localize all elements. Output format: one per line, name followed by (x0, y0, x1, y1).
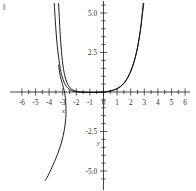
y-tick-label: 2.5 (88, 49, 97, 57)
x-axis-label: x (61, 107, 65, 114)
y-tick-label: 5.0 (88, 10, 97, 18)
x-tick-label: -6 (19, 99, 25, 107)
plot-background (0, 0, 196, 191)
y-axis-label: y (96, 139, 100, 146)
x-tick-label: -1 (87, 99, 93, 107)
y-tick-label: -5.0 (86, 168, 98, 176)
graph-figure: -6-5-4-3-2-10123456 -5.0-2.52.55.0 x y (0, 0, 196, 191)
x-tick-label: 4 (156, 99, 160, 107)
x-tick-label: 1 (115, 99, 119, 107)
x-tick-label: 0 (102, 99, 106, 107)
x-tick-label: -5 (33, 99, 39, 107)
y-tick-label: -2.5 (86, 128, 98, 136)
x-tick-label: 6 (183, 99, 187, 107)
x-tick-label: 5 (170, 99, 174, 107)
corner-artifact-mark (3, 4, 6, 10)
x-tick-label: 2 (129, 99, 133, 107)
x-tick-label: -4 (46, 99, 52, 107)
x-tick-label: -2 (73, 99, 79, 107)
x-tick-label: 3 (143, 99, 147, 107)
coordinate-plot: -6-5-4-3-2-10123456 -5.0-2.52.55.0 x y (0, 0, 196, 191)
